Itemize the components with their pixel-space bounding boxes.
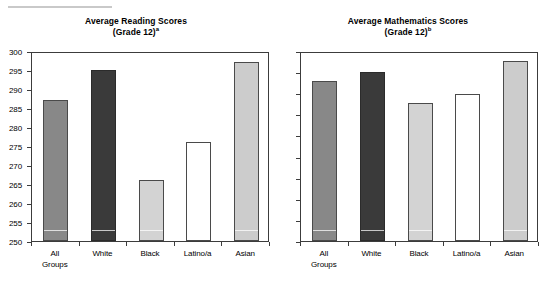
reading-y-tick-label: 290 [9, 86, 22, 95]
x-axis-label-line: White [361, 249, 381, 258]
reading-x-tick-mark [174, 242, 175, 246]
reading-x-tick-mark [269, 242, 270, 246]
bar-mathematics-black [408, 103, 433, 241]
x-axis-label-line: Asian [504, 249, 524, 258]
reading-y-tick-label: 255 [9, 219, 22, 228]
reading-y-tick-mark [27, 166, 31, 167]
scan-artifact-band [456, 230, 479, 231]
reading-y-tick-label: 285 [9, 105, 22, 114]
reading-plot-area [31, 52, 269, 242]
x-axis-label-reading-latino: Latino/a [174, 249, 222, 260]
x-axis-label-line: Groups [300, 260, 348, 271]
mathematics-x-tick-mark [443, 242, 444, 246]
chart-panel-mathematics: Average Mathematics Scores (Grade 12)b 0… [272, 0, 544, 286]
x-axis-label-reading-black: Black [126, 249, 174, 260]
reading-y-tick-mark [27, 128, 31, 129]
reading-y-tick-label: 280 [9, 124, 22, 133]
mathematics-bars-layer [301, 53, 537, 241]
x-axis-label-reading-white: White [79, 249, 127, 260]
reading-y-tick-mark [27, 147, 31, 148]
scan-artifact-band [361, 230, 384, 231]
scan-artifact-band [140, 230, 163, 231]
x-axis-label-line: Black [409, 249, 428, 258]
reading-title-line2: (Grade 12)a [0, 27, 272, 38]
mathematics-y-tick-mark [296, 94, 300, 95]
mathematics-x-tick-mark [395, 242, 396, 246]
mathematics-title-subtitle: (Grade 12) [385, 27, 428, 37]
mathematics-x-tick-mark [300, 242, 301, 246]
reading-y-tick-label: 275 [9, 143, 22, 152]
reading-y-tick-mark [27, 71, 31, 72]
x-axis-label-line: Asian [235, 249, 255, 258]
reading-y-tick-mark [27, 52, 31, 53]
mathematics-chart-title: Average Mathematics Scores (Grade 12)b [272, 16, 544, 38]
x-axis-label-line: Latino/a [184, 249, 212, 258]
mathematics-y-tick-mark [296, 52, 300, 53]
mathematics-x-tick-mark [538, 242, 539, 246]
mathematics-x-tick-mark [348, 242, 349, 246]
x-axis-label-mathematics-allgroups: AllGroups [300, 249, 348, 270]
bar-reading-white [91, 70, 116, 241]
bar-mathematics-asian [503, 61, 528, 242]
reading-y-tick-mark [27, 90, 31, 91]
reading-y-tick-label: 265 [9, 181, 22, 190]
mathematics-plot-area [300, 52, 538, 242]
reading-y-tick-label: 300 [9, 48, 22, 57]
bar-reading-asian [234, 62, 259, 241]
reading-y-tick-mark [27, 109, 31, 110]
reading-title-line1: Average Reading Scores [85, 16, 187, 26]
reading-y-tick-mark [27, 204, 31, 205]
mathematics-x-tick-mark [490, 242, 491, 246]
reading-y-tick-mark [27, 185, 31, 186]
scan-artifact-band [44, 230, 67, 231]
x-axis-label-reading-asian: Asian [221, 249, 269, 260]
bar-reading-black [139, 180, 164, 241]
bar-mathematics-latino [455, 94, 480, 241]
reading-y-tick-label: 250 [9, 238, 22, 247]
reading-x-tick-mark [31, 242, 32, 246]
bar-reading-allgroups [43, 100, 68, 241]
bar-mathematics-allgroups [312, 81, 337, 241]
mathematics-y-tick-mark [296, 179, 300, 180]
reading-x-tick-mark [79, 242, 80, 246]
x-axis-label-mathematics-asian: Asian [490, 249, 538, 260]
reading-bars-layer [32, 53, 268, 241]
mathematics-title-line2: (Grade 12)b [272, 27, 544, 38]
reading-x-tick-mark [221, 242, 222, 246]
charts-row: Average Reading Scores (Grade 12)a 25025… [0, 0, 544, 286]
reading-title-subtitle: (Grade 12) [113, 27, 156, 37]
mathematics-y-tick-mark [296, 158, 300, 159]
scan-artifact-band [187, 230, 210, 231]
reading-x-tick-mark [126, 242, 127, 246]
reading-y-tick-label: 260 [9, 200, 22, 209]
chart-panel-reading: Average Reading Scores (Grade 12)a 25025… [0, 0, 272, 286]
mathematics-y-tick-mark [296, 221, 300, 222]
x-axis-label-line: All [51, 249, 60, 258]
reading-y-axis: 250255260265270275280285290295300 [0, 52, 27, 242]
reading-y-tick-label: 270 [9, 162, 22, 171]
mathematics-y-tick-mark [296, 115, 300, 116]
scan-artifact-band [504, 230, 527, 231]
scan-artifact-band [235, 230, 258, 231]
reading-y-tick-mark [27, 223, 31, 224]
scan-artifact-band [409, 230, 432, 231]
mathematics-title-line1: Average Mathematics Scores [348, 16, 468, 26]
mathematics-y-tick-mark [296, 136, 300, 137]
x-axis-label-mathematics-black: Black [395, 249, 443, 260]
reading-chart-title: Average Reading Scores (Grade 12)a [0, 16, 272, 38]
x-axis-label-reading-allgroups: AllGroups [31, 249, 79, 270]
scan-artifact-band [313, 230, 336, 231]
reading-y-tick-label: 295 [9, 67, 22, 76]
x-axis-label-line: Groups [31, 260, 79, 271]
x-axis-label-line: Black [140, 249, 159, 258]
x-axis-label-line: All [320, 249, 329, 258]
reading-title-superscript: a [156, 26, 159, 32]
x-axis-label-line: White [92, 249, 112, 258]
x-axis-label-mathematics-latino: Latino/a [443, 249, 491, 260]
mathematics-y-tick-mark [296, 200, 300, 201]
bar-mathematics-white [360, 72, 385, 241]
mathematics-y-tick-mark [296, 73, 300, 74]
bar-reading-latino [186, 142, 211, 241]
scan-artifact-band [92, 230, 115, 231]
x-axis-label-mathematics-white: White [348, 249, 396, 260]
